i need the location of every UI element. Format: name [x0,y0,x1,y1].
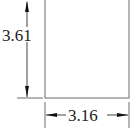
arrow-left-icon [46,113,57,117]
arrow-up-icon [25,1,29,12]
arrow-down-icon [25,86,29,97]
width-dimension: 3.16 [45,102,129,128]
height-dimension: 3.61 [2,1,43,98]
dimension-diagram: 3.61 3.16 [0,0,137,129]
rectangle-shape [45,0,129,98]
arrow-right-icon [117,113,128,117]
height-label: 3.61 [2,26,32,45]
width-label: 3.16 [68,106,98,125]
